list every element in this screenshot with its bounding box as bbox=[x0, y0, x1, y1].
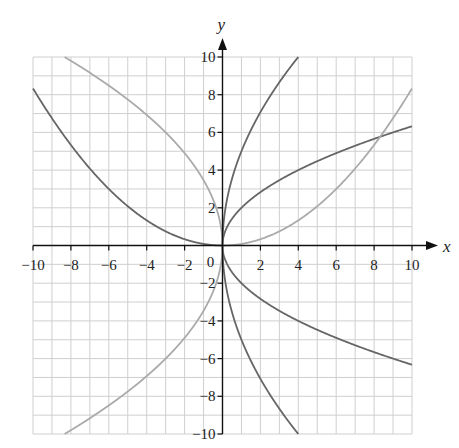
y-tick-label: −10 bbox=[192, 426, 215, 442]
x-tick-label: 0 bbox=[207, 254, 215, 270]
axes bbox=[33, 38, 438, 434]
x-tick-label: −6 bbox=[101, 257, 117, 273]
y-tick-label: −8 bbox=[200, 388, 216, 404]
x-tick-label: −2 bbox=[177, 257, 193, 273]
x-tick-label: 2 bbox=[257, 257, 265, 273]
y-axis-arrow-icon bbox=[218, 38, 227, 50]
x-tick-label: −8 bbox=[63, 257, 79, 273]
x-tick-label: −10 bbox=[21, 257, 44, 273]
y-tick-label: −2 bbox=[200, 275, 216, 291]
y-axis-label: y bbox=[216, 15, 226, 34]
x-tick-label: −4 bbox=[139, 257, 155, 273]
chart-plot: −10−8−6−4−20246810−10−8−6−4−2246810 x y bbox=[0, 0, 459, 448]
x-tick-label: 4 bbox=[295, 257, 303, 273]
y-tick-label: −4 bbox=[200, 313, 216, 329]
x-tick-label: 8 bbox=[370, 257, 378, 273]
x-axis-arrow-icon bbox=[426, 241, 438, 250]
x-tick-label: 6 bbox=[332, 257, 340, 273]
y-tick-label: −6 bbox=[200, 351, 216, 367]
y-tick-label: 10 bbox=[201, 49, 216, 65]
y-tick-label: 2 bbox=[208, 200, 216, 216]
y-tick-label: 8 bbox=[208, 87, 216, 103]
x-tick-label: 10 bbox=[405, 257, 420, 273]
y-tick-label: 4 bbox=[208, 162, 216, 178]
y-tick-label: 6 bbox=[208, 124, 216, 140]
x-axis-label: x bbox=[442, 237, 451, 256]
